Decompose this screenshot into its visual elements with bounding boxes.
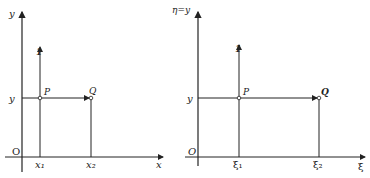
point-q [89,96,93,100]
y-axis-label: y [8,8,15,19]
marker-label: 1 [235,44,241,54]
point-q-label: Q [321,87,329,97]
tick-xi2-label: ξ₂ [313,159,323,170]
left-diagram: y y O P Q x₁ x₂ x 1 [5,8,163,172]
point-p [237,96,241,100]
marker-label: 1 [36,47,42,57]
point-q-label: Q [89,86,97,96]
figure: y y O P Q x₁ x₂ x 1 η=y y O P Q ξ₁ ξ₂ ξ … [0,0,370,178]
tick-x2-label: x₂ [86,159,96,170]
origin-label: O [188,146,196,157]
x-axis-label: x [156,159,162,170]
eta-axis-label: η=y [172,5,191,15]
right-diagram: η=y y O P Q ξ₁ ξ₂ ξ 1 [172,5,365,172]
point-p [38,96,42,100]
tick-x1-label: x₁ [35,159,45,170]
tick-xi1-label: ξ₁ [233,159,243,170]
point-p-label: P [43,87,51,97]
level-label: y [8,93,15,104]
origin-label: O [12,146,20,157]
level-label: y [186,93,193,104]
xi-axis-label: ξ [358,161,364,172]
point-p-label: P [242,87,250,97]
